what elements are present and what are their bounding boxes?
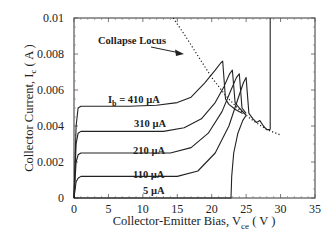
svg-text:Collector-Emitter Bias, Vce (: Collector-Emitter Bias, Vce ( V ) — [113, 214, 276, 231]
x-axis-title: Collector-Emitter Bias, Vce ( V ) — [113, 214, 276, 231]
x-tick-label: 0 — [71, 202, 77, 216]
y-axis-title: Collector Current, Ic ( A ) — [22, 44, 38, 172]
ib-210-label: 210 µA — [133, 145, 165, 156]
x-tick-label: 30 — [275, 202, 287, 216]
y-tick-label: 0.006 — [37, 83, 64, 97]
axis-ticks: 0510152025303500.0020.0040.0060.0080.01 — [37, 11, 321, 216]
y-tick-label: 0.01 — [43, 11, 64, 25]
y-tick-label: 0.002 — [37, 155, 64, 169]
svg-text:Collector Current, Ic ( A ): Collector Current, Ic ( A ) — [22, 44, 38, 172]
y-tick-label: 0.004 — [37, 119, 64, 133]
ib-110-label: 110 µA — [133, 169, 165, 180]
y-tick-label: 0 — [58, 191, 64, 205]
collapse-locus-arrow — [151, 47, 184, 56]
chart: 0510152025303500.0020.0040.0060.0080.01 … — [0, 0, 332, 241]
chart-svg: 0510152025303500.0020.0040.0060.0080.01 … — [0, 0, 332, 241]
series-line — [173, 18, 280, 135]
x-tick-label: 5 — [105, 202, 111, 216]
ib-310-label: 310 µA — [134, 118, 166, 129]
y-tick-label: 0.008 — [37, 47, 64, 61]
ib-5-label: 5 µA — [143, 185, 165, 196]
collapse-locus-label: Collapse Locus — [98, 35, 166, 46]
x-tick-label: 35 — [309, 202, 321, 216]
